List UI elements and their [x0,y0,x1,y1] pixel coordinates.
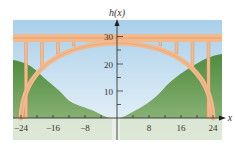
bridge-arch-chart: −24 −16 −8 8 16 24 x 10 20 30 h(x) [0,0,235,145]
x-tick-label: 8 [147,123,152,133]
illustration-background [13,20,222,140]
y-axis-title: h(x) [109,7,126,19]
y-tick-label: 10 [104,87,114,97]
x-tick-label: 16 [177,123,187,133]
x-axis-title: x [227,112,233,123]
x-tick-label: 24 [209,123,219,133]
x-tick-label: −8 [80,123,90,133]
x-tick-label: −16 [46,123,61,133]
x-axis-arrow-icon [219,116,226,121]
ground-strip [13,118,222,140]
x-tick-label: −24 [14,123,29,133]
y-tick-label: 30 [104,32,114,42]
y-tick-label: 20 [104,60,114,70]
